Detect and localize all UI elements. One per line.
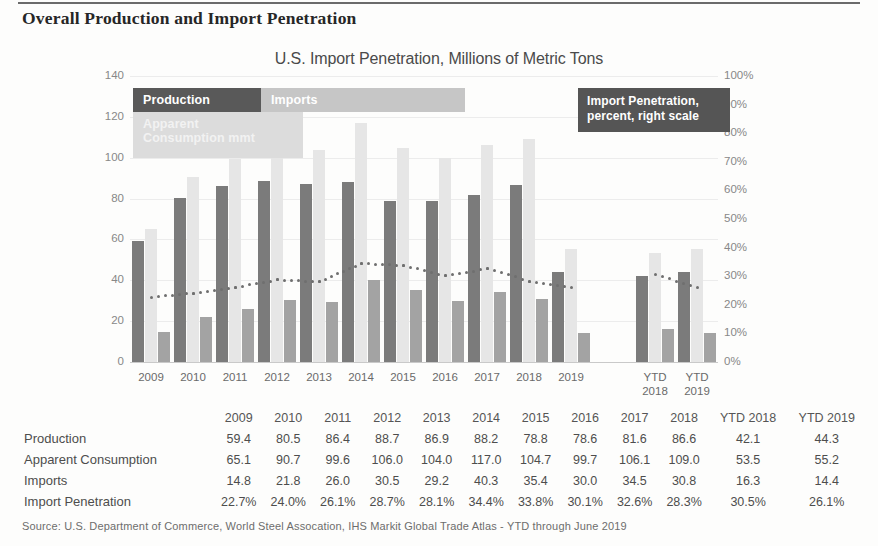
bar-imports [494, 292, 506, 362]
import-penetration-marker [311, 280, 314, 283]
import-penetration-marker [199, 291, 202, 294]
bar-production [426, 201, 438, 362]
bar-apparent-consumption [439, 158, 451, 362]
y-tick-right: 10% [724, 326, 747, 338]
import-penetration-marker [486, 267, 489, 270]
table-body: Production59.480.586.488.786.988.278.878… [22, 428, 866, 512]
bar-apparent-consumption [397, 148, 409, 362]
table-row: Production59.480.586.488.786.988.278.878… [22, 428, 866, 449]
import-penetration-marker [150, 296, 153, 299]
data-table-wrapper: 2009201020112012201320142015201620172018… [22, 408, 866, 512]
y-tick-left: 80 [111, 192, 124, 204]
table-cell: 78.8 [511, 428, 560, 449]
y-axis-right: 0%10%20%30%40%50%60%70%80%90%100% [724, 76, 764, 362]
table-column-header: 2018 [659, 408, 708, 428]
import-penetration-marker [269, 280, 272, 283]
import-penetration-marker [388, 263, 391, 266]
table-cell: 30.5 [362, 470, 411, 491]
import-penetration-marker [318, 280, 321, 283]
bar-production [636, 276, 648, 362]
x-axis-tick-label: 2012 [256, 370, 298, 384]
bar-production [174, 198, 186, 362]
page-title: Overall Production and Import Penetratio… [22, 8, 357, 29]
import-penetration-marker [682, 282, 685, 285]
table-cell: 65.1 [214, 449, 263, 470]
bar-production [468, 195, 480, 362]
bar-imports [158, 332, 170, 362]
table-column-header: 2016 [560, 408, 609, 428]
x-axis-line [130, 362, 718, 363]
y-tick-right: 20% [724, 298, 747, 310]
x-axis-tick-label: 2017 [466, 370, 508, 384]
table-cell: 55.2 [787, 449, 866, 470]
x-axis-tick-label: 2009 [130, 370, 172, 384]
table-cell: 86.4 [313, 428, 362, 449]
table-row-header: Imports [22, 470, 214, 491]
bar-imports [536, 299, 548, 362]
import-penetration-marker [297, 279, 300, 282]
table-cell: 30.0 [560, 470, 609, 491]
x-axis-labels: 2009201020112012201320142015201620172018… [130, 366, 718, 408]
table-cell: 29.2 [412, 470, 461, 491]
table-column-header: 2015 [511, 408, 560, 428]
y-tick-right: 0% [724, 355, 741, 367]
table-cell: 86.9 [412, 428, 461, 449]
import-penetration-marker [157, 295, 160, 298]
bar-apparent-consumption [481, 145, 493, 362]
table-cell: 106.0 [362, 449, 411, 470]
y-tick-right: 40% [724, 241, 747, 253]
bar-apparent-consumption [313, 150, 325, 362]
import-penetration-marker [381, 263, 384, 266]
table-column-header: YTD 2019 [787, 408, 866, 428]
bar-imports [242, 309, 254, 362]
import-penetration-marker [374, 263, 377, 266]
table-cell: 78.6 [560, 428, 609, 449]
import-penetration-marker [451, 273, 454, 276]
x-axis-tick-label: 2015 [382, 370, 424, 384]
bar-imports [662, 329, 674, 362]
y-tick-left: 60 [111, 232, 124, 244]
table-row-header: Import Penetration [22, 491, 214, 512]
table-cell: 44.3 [787, 428, 866, 449]
table-cell: 53.5 [709, 449, 788, 470]
table-cell: 59.4 [214, 428, 263, 449]
import-penetration-marker [696, 286, 699, 289]
table-cell: 26.1% [787, 491, 866, 512]
table-cell: 35.4 [511, 470, 560, 491]
bar-apparent-consumption [565, 249, 577, 362]
bar-apparent-consumption [649, 253, 661, 362]
import-penetration-marker [348, 267, 351, 270]
table-column-header: 2014 [461, 408, 510, 428]
table-cell: 99.7 [560, 449, 609, 470]
table-cell: 117.0 [461, 449, 510, 470]
gridline [130, 76, 718, 77]
import-penetration-marker [437, 273, 440, 276]
import-penetration-marker [324, 278, 327, 281]
table-cell: 40.3 [461, 470, 510, 491]
data-table: 2009201020112012201320142015201620172018… [22, 408, 866, 512]
table-cell: 99.6 [313, 449, 362, 470]
slide-page: Overall Production and Import Penetratio… [0, 0, 878, 546]
y-tick-left: 100 [105, 151, 124, 163]
y-tick-left: 140 [105, 69, 124, 81]
table-cell: 81.6 [610, 428, 659, 449]
table-cell: 109.0 [659, 449, 708, 470]
import-penetration-marker [192, 292, 195, 295]
table-cell: 86.6 [659, 428, 708, 449]
x-axis-tick-label: 2010 [172, 370, 214, 384]
import-penetration-marker [528, 280, 531, 283]
import-penetration-marker [556, 284, 559, 287]
table-cell: 104.7 [511, 449, 560, 470]
table-cell: 33.8% [511, 491, 560, 512]
table-cell: 26.0 [313, 470, 362, 491]
y-tick-left: 40 [111, 273, 124, 285]
table-row: Import Penetration22.7%24.0%26.1%28.7%28… [22, 491, 866, 512]
table-cell: 22.7% [214, 491, 263, 512]
import-penetration-marker [570, 286, 573, 289]
bar-imports [284, 300, 296, 362]
legend-imports: Imports [261, 88, 465, 112]
table-column-header: YTD 2018 [709, 408, 788, 428]
table-cell: 88.2 [461, 428, 510, 449]
bar-imports [368, 280, 380, 362]
import-penetration-marker [521, 278, 524, 281]
